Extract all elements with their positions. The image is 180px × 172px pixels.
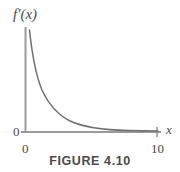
figure-container: f′(x) x 0 0 10 FIGURE 4.10 — [0, 0, 180, 172]
y-axis-origin-tick-label: 0 — [13, 125, 20, 138]
x-axis-max-tick-label: 10 — [151, 142, 164, 155]
x-axis-origin-tick-label: 0 — [22, 142, 29, 155]
curve-f-prime — [30, 30, 159, 131]
y-axis-label: f′(x) — [13, 7, 37, 22]
x-axis-label: x — [166, 123, 172, 136]
figure-caption: FIGURE 4.10 — [0, 155, 180, 168]
